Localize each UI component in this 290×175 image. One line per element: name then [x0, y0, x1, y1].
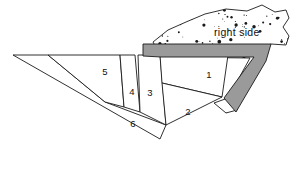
stipple-dot: [204, 19, 205, 20]
stipple-dot: [286, 52, 288, 54]
stipple-dot: [276, 69, 278, 71]
stipple-dot: [269, 23, 271, 25]
region-label-1: 1: [206, 69, 211, 80]
stipple-dot: [276, 17, 279, 20]
stipple-dot: [273, 69, 275, 71]
stipple-dot: [273, 109, 276, 112]
stipple-dot: [239, 59, 240, 60]
stipple-dot: [266, 16, 267, 17]
stipple-dot: [255, 90, 256, 91]
stipple-dot: [282, 78, 284, 80]
stipple-dot: [167, 36, 168, 37]
stipple-dot: [288, 91, 289, 92]
stipple-dot: [269, 79, 271, 81]
stipple-dot: [199, 41, 200, 42]
stipple-dot: [281, 39, 282, 40]
stipple-dot: [243, 14, 244, 15]
stipple-dot: [276, 86, 278, 88]
stipple-dot: [270, 76, 271, 77]
stipple-dot: [156, 29, 158, 31]
stipple-dot: [239, 115, 240, 116]
stipple-dot: [224, 14, 225, 15]
stipple-dot: [166, 40, 168, 42]
stipple-dot: [273, 107, 274, 108]
stipple-dot: [272, 9, 273, 10]
stipple-dot: [289, 19, 290, 21]
stipple-dot: [194, 111, 195, 112]
stipple-dot: [182, 37, 183, 38]
stipple-dot: [265, 82, 267, 84]
stipple-dot: [277, 103, 278, 104]
stipple-dot: [226, 114, 229, 117]
stipple-dot: [216, 113, 218, 115]
stipple-dot: [246, 59, 247, 60]
stipple-dot: [218, 13, 219, 14]
stipple-dot: [218, 112, 219, 113]
stipple-dot: [225, 79, 226, 80]
stipple-dot: [217, 40, 221, 44]
stipple-dot: [233, 75, 234, 76]
stipple-dot: [281, 70, 284, 73]
stipple-dot: [274, 112, 275, 113]
regions-group: [13, 55, 228, 139]
region-label-3: 3: [147, 87, 152, 98]
stipple-dot: [229, 4, 231, 6]
stipple-dot: [280, 61, 281, 62]
stipple-dot: [276, 70, 277, 71]
stipple-dot: [166, 7, 167, 8]
stipple-dot: [251, 94, 252, 95]
stipple-dot: [265, 85, 266, 86]
figure-root: 1 2 3 4 5 6 right side: [0, 0, 290, 175]
stipple-dot: [178, 8, 179, 9]
region-label-4: 4: [129, 86, 134, 97]
stipple-dot: [224, 92, 225, 93]
region-label-6: 6: [130, 118, 135, 129]
stipple-dot: [222, 19, 223, 20]
stipple-dot: [286, 47, 289, 50]
stipple-dot: [247, 99, 251, 103]
stipple-dot: [157, 11, 158, 12]
stipple-dot: [188, 5, 191, 8]
stipple-dot: [276, 49, 278, 51]
stipple-dot: [284, 43, 285, 44]
stipple-dot: [227, 16, 229, 18]
stipple-dot: [253, 109, 255, 111]
stipple-dot: [273, 70, 274, 71]
stipple-dot: [214, 9, 215, 10]
stipple-dot: [202, 23, 205, 26]
stipple-dot: [223, 4, 225, 6]
stipple-dot: [209, 41, 210, 42]
region-label-2: 2: [185, 106, 190, 117]
stipple-dot: [243, 102, 245, 104]
stipple-dot: [276, 100, 280, 104]
stipple-dot: [262, 85, 264, 87]
stipple-dot: [198, 13, 200, 15]
stipple-dot: [262, 77, 264, 79]
stipple-dot: [233, 68, 234, 69]
stipple-dot: [216, 114, 217, 115]
stipple-dot: [206, 112, 207, 113]
stipple-dot: [280, 40, 283, 43]
stipple-dot: [272, 14, 273, 15]
stipple-dot: [235, 21, 236, 22]
stipple-dot: [258, 88, 261, 91]
stipple-dot: [230, 16, 232, 18]
stipple-dot: [162, 7, 164, 9]
stipple-dot: [229, 38, 232, 41]
stipple-dot: [262, 21, 264, 23]
stipple-dot: [249, 108, 252, 111]
stipple-dot: [162, 18, 163, 19]
stipple-dot: [280, 106, 282, 108]
stipple-dot: [288, 57, 290, 60]
stipple-dot: [202, 42, 204, 44]
stipple-dot: [224, 93, 225, 94]
stipple-dot: [288, 30, 289, 31]
stipple-dot: [274, 92, 275, 93]
stipple-dot: [288, 25, 290, 27]
stipple-dot: [283, 50, 286, 53]
stipple-dot: [180, 4, 182, 6]
stipple-dot: [278, 10, 279, 11]
stipple-dot: [178, 31, 180, 33]
stipple-dot: [184, 5, 187, 8]
stipple-dot: [209, 112, 210, 113]
